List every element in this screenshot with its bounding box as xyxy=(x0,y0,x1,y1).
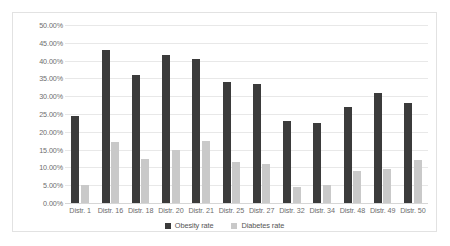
bar-obesity[interactable] xyxy=(102,50,110,203)
bar-diabetes[interactable] xyxy=(81,185,89,203)
x-axis-tick-label: Distr. 21 xyxy=(186,204,216,218)
bar-obesity[interactable] xyxy=(283,121,291,203)
plot-area xyxy=(65,25,428,203)
y-axis-tick-label: 0.00% xyxy=(43,199,63,208)
bar-group xyxy=(216,25,246,203)
bars-layer xyxy=(65,25,428,203)
bar-diabetes[interactable] xyxy=(353,171,361,203)
bar-group xyxy=(398,25,428,203)
bar-diabetes[interactable] xyxy=(111,142,119,203)
y-axis-tick-label: 20.00% xyxy=(39,127,63,136)
bar-group xyxy=(368,25,398,203)
bar-obesity[interactable] xyxy=(374,93,382,203)
bar-group xyxy=(277,25,307,203)
bar-group xyxy=(247,25,277,203)
x-axis-tick-label: Distr. 25 xyxy=(216,204,246,218)
y-axis-tick-label: 15.00% xyxy=(39,145,63,154)
legend-swatch-icon xyxy=(165,223,171,229)
y-axis-tick-label: 25.00% xyxy=(39,110,63,119)
chart-legend: Obesity rateDiabetes rate xyxy=(13,221,436,230)
bar-group xyxy=(156,25,186,203)
bar-group xyxy=(95,25,125,203)
legend-swatch-icon xyxy=(231,223,237,229)
chart-container: 0.00%5.00%10.00%15.00%20.00%25.00%30.00%… xyxy=(12,12,437,232)
y-axis-tick-label: 35.00% xyxy=(39,74,63,83)
bar-diabetes[interactable] xyxy=(172,150,180,203)
bar-obesity[interactable] xyxy=(71,116,79,203)
bar-group xyxy=(307,25,337,203)
x-axis-tick-label: Distr. 20 xyxy=(156,204,186,218)
x-axis: Distr. 1Distr. 16Distr. 18Distr. 20Distr… xyxy=(65,204,428,218)
bar-obesity[interactable] xyxy=(344,107,352,203)
x-axis-tick-label: Distr. 16 xyxy=(95,204,125,218)
bar-group xyxy=(337,25,367,203)
plot-wrapper: 0.00%5.00%10.00%15.00%20.00%25.00%30.00%… xyxy=(13,13,436,231)
x-axis-tick-label: Distr. 34 xyxy=(307,204,337,218)
x-axis-tick-label: Distr. 49 xyxy=(368,204,398,218)
bar-diabetes[interactable] xyxy=(232,162,240,203)
bar-group xyxy=(126,25,156,203)
y-axis: 0.00%5.00%10.00%15.00%20.00%25.00%30.00%… xyxy=(23,25,63,203)
legend-item-obesity[interactable]: Obesity rate xyxy=(165,221,214,230)
y-axis-tick-label: 30.00% xyxy=(39,92,63,101)
bar-diabetes[interactable] xyxy=(141,159,149,204)
x-axis-tick-label: Distr. 1 xyxy=(65,204,95,218)
x-axis-tick-label: Distr. 27 xyxy=(247,204,277,218)
x-axis-tick-label: Distr. 18 xyxy=(126,204,156,218)
bar-obesity[interactable] xyxy=(192,59,200,203)
bar-obesity[interactable] xyxy=(404,103,412,203)
bar-diabetes[interactable] xyxy=(293,187,301,203)
bar-diabetes[interactable] xyxy=(414,160,422,203)
bar-obesity[interactable] xyxy=(253,84,261,203)
bar-group xyxy=(65,25,95,203)
bar-diabetes[interactable] xyxy=(323,185,331,203)
x-axis-tick-label: Distr. 48 xyxy=(337,204,367,218)
y-axis-tick-label: 45.00% xyxy=(39,38,63,47)
bar-obesity[interactable] xyxy=(162,55,170,203)
bar-diabetes[interactable] xyxy=(262,164,270,203)
legend-label: Obesity rate xyxy=(175,221,214,230)
y-axis-tick-label: 40.00% xyxy=(39,56,63,65)
y-axis-tick-label: 5.00% xyxy=(43,181,63,190)
bar-diabetes[interactable] xyxy=(383,169,391,203)
bar-group xyxy=(186,25,216,203)
y-axis-tick-label: 10.00% xyxy=(39,163,63,172)
bar-obesity[interactable] xyxy=(313,123,321,203)
bar-obesity[interactable] xyxy=(132,75,140,203)
x-axis-tick-label: Distr. 50 xyxy=(398,204,428,218)
x-axis-tick-label: Distr. 32 xyxy=(277,204,307,218)
legend-item-diabetes[interactable]: Diabetes rate xyxy=(231,221,284,230)
bar-obesity[interactable] xyxy=(223,82,231,203)
bar-diabetes[interactable] xyxy=(202,141,210,203)
y-axis-tick-label: 50.00% xyxy=(39,21,63,30)
legend-label: Diabetes rate xyxy=(241,221,284,230)
